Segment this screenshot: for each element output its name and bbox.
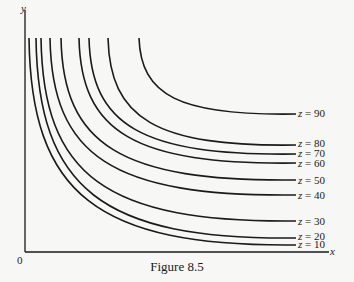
x-axis-label: x bbox=[329, 245, 335, 257]
contour-curve-z90 bbox=[139, 38, 296, 114]
contour-label-z20: z = 20 bbox=[297, 230, 325, 242]
y-axis-label: y bbox=[20, 2, 26, 14]
figure-caption: Figure 8.5 bbox=[0, 259, 354, 275]
contour-curve-z70 bbox=[89, 38, 296, 154]
contour-label-z90: z = 90 bbox=[297, 107, 325, 119]
contour-label-z80: z = 80 bbox=[297, 137, 325, 149]
contour-labels: z = 10z = 20z = 30z = 40z = 50z = 60z = … bbox=[297, 107, 325, 250]
contour-curve-z20 bbox=[36, 38, 296, 238]
contour-figure: y x 0 z = 10z = 20z = 30z = 40z = 50z = … bbox=[0, 0, 354, 282]
contour-curve-z50 bbox=[61, 38, 296, 180]
contour-label-z30: z = 30 bbox=[297, 215, 325, 227]
contour-label-z40: z = 40 bbox=[297, 189, 325, 201]
contour-curve-z80 bbox=[108, 38, 296, 145]
contour-curves bbox=[29, 38, 296, 245]
contour-label-z50: z = 50 bbox=[297, 174, 325, 186]
